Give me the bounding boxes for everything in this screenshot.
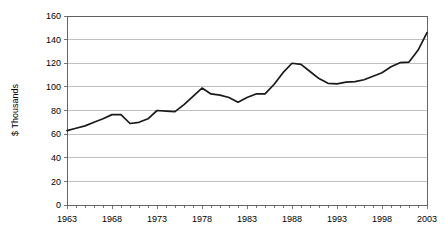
x-tick-label-1983: 1983 — [237, 214, 257, 224]
y-tick-label-20: 20 — [51, 177, 61, 187]
y-tick-label-160: 160 — [46, 11, 61, 21]
x-tick-label-1993: 1993 — [327, 214, 347, 224]
x-tick-label-1988: 1988 — [282, 214, 302, 224]
y-tick-label-140: 140 — [46, 35, 61, 45]
x-tick-label-1973: 1973 — [147, 214, 167, 224]
x-tick-label-1998: 1998 — [372, 214, 392, 224]
chart-figure: 020406080100120140160 196319681973197819… — [0, 0, 445, 237]
y-tick-label-40: 40 — [51, 153, 61, 163]
y-tick-label-80: 80 — [51, 106, 61, 116]
y-tick-label-60: 60 — [51, 129, 61, 139]
y-tick-label-100: 100 — [46, 82, 61, 92]
x-tick-label-1968: 1968 — [102, 214, 122, 224]
y-tick-label-0: 0 — [56, 200, 61, 210]
line-chart: 020406080100120140160 196319681973197819… — [0, 0, 445, 237]
x-tick-labels: 196319681973197819831988199319982003 — [57, 214, 437, 224]
x-tick-label-2003: 2003 — [417, 214, 437, 224]
x-tick-label-1978: 1978 — [192, 214, 212, 224]
x-tick-label-1963: 1963 — [57, 214, 77, 224]
y-axis-title: $ Thousands — [10, 84, 20, 136]
y-tick-label-120: 120 — [46, 58, 61, 68]
